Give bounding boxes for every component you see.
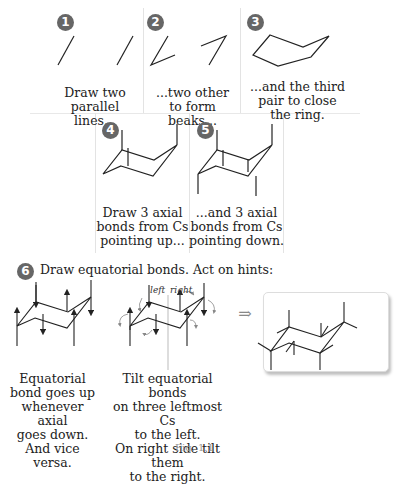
- figure-caption: Fig. 1.1: [175, 442, 214, 453]
